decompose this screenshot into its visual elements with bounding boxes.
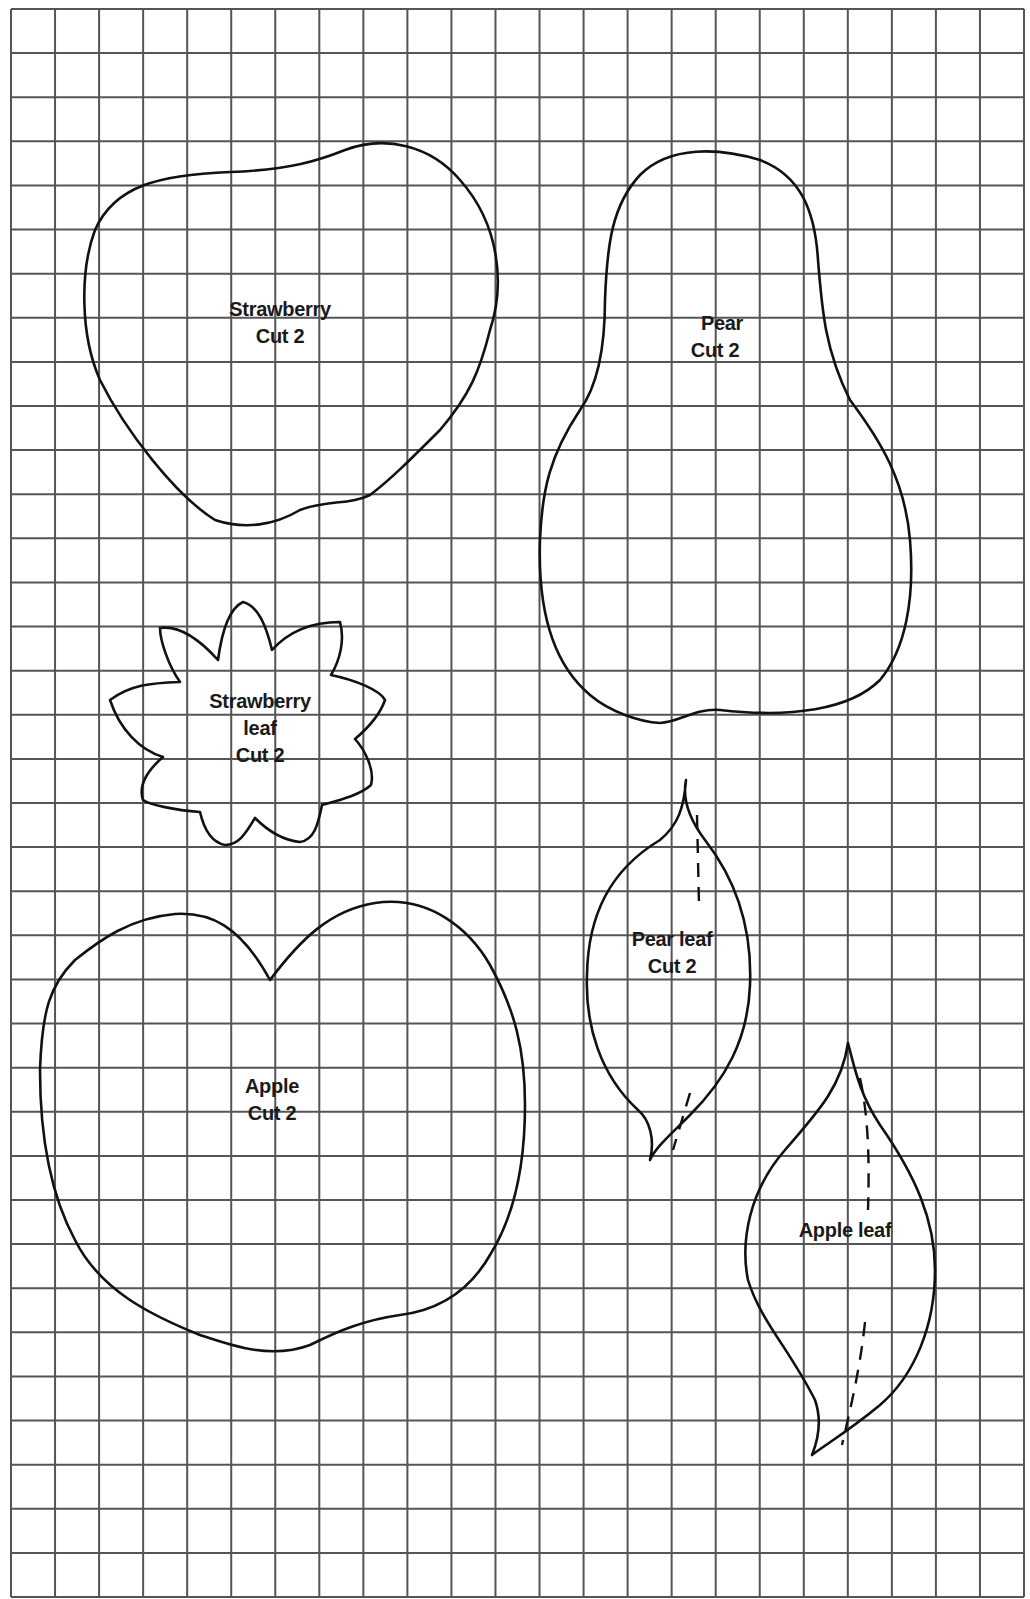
- apple-leaf-outline: [745, 1043, 935, 1455]
- strawberry-label: StrawberryCut 2: [205, 296, 355, 350]
- pear-leaf-vein-bottom: [673, 1093, 690, 1150]
- apple-leaf-label: Apple leaf: [780, 1217, 910, 1244]
- pear-label: PearCut 2: [660, 310, 770, 364]
- pattern-sheet: [0, 0, 1030, 1599]
- apple-label: AppleCut 2: [222, 1073, 322, 1127]
- pear-outline: [540, 151, 911, 723]
- strawberry-leaf-label: StrawberryleafCut 2: [185, 688, 335, 769]
- grid: [11, 9, 1024, 1597]
- pear-leaf-label: Pear leafCut 2: [612, 926, 732, 980]
